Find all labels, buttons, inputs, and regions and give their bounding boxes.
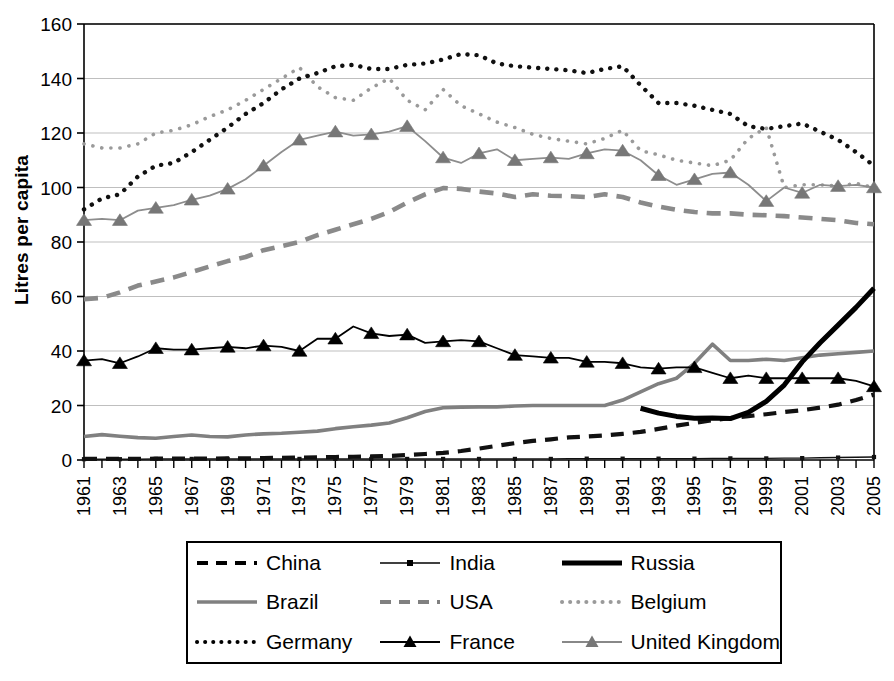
series-line bbox=[84, 126, 874, 220]
legend-label: Russia bbox=[631, 551, 695, 575]
data-point-marker bbox=[513, 457, 517, 461]
series-line bbox=[84, 395, 874, 459]
legend-item-india[interactable]: India bbox=[371, 543, 552, 583]
legend-swatch bbox=[371, 591, 449, 613]
x-axis-tick-labels: 1961196319651967196919711973197519771979… bbox=[74, 476, 884, 516]
legend-swatch bbox=[553, 552, 631, 574]
x-tick-label: 1961 bbox=[74, 476, 94, 516]
legend-swatch bbox=[553, 591, 631, 613]
legend-row: ChinaIndiaRussia bbox=[188, 543, 780, 583]
line-chart-svg: 020406080100120140160 196119631965196719… bbox=[0, 0, 894, 540]
legend-item-france[interactable]: France bbox=[371, 622, 552, 662]
data-point-marker bbox=[364, 327, 379, 339]
legend-item-germany[interactable]: Germany bbox=[188, 622, 371, 662]
legend-label: Brazil bbox=[266, 590, 319, 614]
data-point-marker bbox=[148, 342, 163, 354]
x-tick-label: 1973 bbox=[289, 476, 309, 516]
y-tick-label: 80 bbox=[51, 232, 72, 253]
x-tick-label: 1963 bbox=[110, 476, 130, 516]
y-tick-label: 120 bbox=[40, 123, 72, 144]
legend-swatch bbox=[188, 591, 266, 613]
legend-item-united-kingdom[interactable]: United Kingdom bbox=[553, 622, 780, 662]
x-tick-label: 1993 bbox=[649, 476, 669, 516]
y-tick-label: 40 bbox=[51, 341, 72, 362]
y-axis-ticks: 020406080100120140160 bbox=[40, 14, 84, 471]
data-point-marker bbox=[226, 457, 230, 461]
data-point-marker bbox=[549, 457, 553, 461]
y-tick-label: 20 bbox=[51, 396, 72, 417]
data-point-marker bbox=[333, 457, 337, 461]
legend-swatch bbox=[188, 631, 266, 653]
x-tick-label: 1969 bbox=[218, 476, 238, 516]
legend-key bbox=[378, 631, 442, 653]
legend-item-usa[interactable]: USA bbox=[371, 583, 552, 623]
legend-key bbox=[195, 591, 259, 613]
data-point-marker bbox=[872, 455, 876, 459]
x-tick-label: 1997 bbox=[720, 476, 740, 516]
legend-label: USA bbox=[449, 590, 492, 614]
y-tick-label: 0 bbox=[61, 450, 72, 471]
data-point-marker bbox=[190, 457, 194, 461]
x-tick-label: 1983 bbox=[469, 476, 489, 516]
x-tick-label: 1987 bbox=[541, 476, 561, 516]
x-tick-label: 1975 bbox=[325, 476, 345, 516]
legend-key bbox=[195, 552, 259, 574]
data-point-marker bbox=[441, 457, 445, 461]
x-axis-ticks bbox=[84, 460, 874, 468]
x-tick-label: 1977 bbox=[361, 476, 381, 516]
legend-key bbox=[378, 552, 442, 574]
data-point-marker bbox=[800, 456, 804, 460]
legend-label: France bbox=[449, 630, 514, 654]
legend-label: Germany bbox=[266, 630, 352, 654]
x-tick-label: 1981 bbox=[433, 476, 453, 516]
series-usa bbox=[84, 188, 874, 299]
legend-item-russia[interactable]: Russia bbox=[553, 543, 780, 583]
data-point-marker bbox=[256, 339, 271, 351]
legend-item-china[interactable]: China bbox=[188, 543, 371, 583]
y-tick-label: 60 bbox=[51, 287, 72, 308]
y-tick-label: 140 bbox=[40, 69, 72, 90]
y-tick-label: 160 bbox=[40, 14, 72, 35]
data-point-marker bbox=[543, 151, 558, 163]
data-point-marker bbox=[400, 120, 415, 132]
data-point-marker bbox=[220, 182, 235, 194]
legend-label: Belgium bbox=[631, 590, 707, 614]
data-point-marker bbox=[405, 457, 409, 461]
x-tick-label: 1991 bbox=[613, 476, 633, 516]
x-tick-label: 1967 bbox=[182, 476, 202, 516]
y-tick-label: 100 bbox=[40, 178, 72, 199]
series-united-kingdom bbox=[77, 120, 882, 226]
legend-key bbox=[560, 631, 624, 653]
legend-label: India bbox=[449, 551, 495, 575]
x-tick-label: 1999 bbox=[756, 476, 776, 516]
legend-row: BrazilUSABelgium bbox=[188, 583, 780, 623]
data-point-marker bbox=[82, 457, 86, 461]
series-brazil bbox=[84, 344, 874, 438]
x-tick-label: 1989 bbox=[577, 476, 597, 516]
data-point-marker bbox=[118, 457, 122, 461]
legend-key-marker bbox=[407, 560, 413, 566]
data-point-marker bbox=[723, 166, 738, 178]
data-point-marker bbox=[261, 457, 265, 461]
series-germany bbox=[84, 54, 874, 209]
data-point-marker bbox=[585, 457, 589, 461]
data-point-marker bbox=[477, 457, 481, 461]
data-point-marker bbox=[692, 457, 696, 461]
data-point-marker bbox=[728, 456, 732, 460]
series-line bbox=[84, 54, 874, 209]
data-point-marker bbox=[867, 380, 882, 392]
legend-label: United Kingdom bbox=[631, 630, 780, 654]
legend-swatch bbox=[553, 631, 631, 653]
x-tick-label: 1965 bbox=[146, 476, 166, 516]
legend-key bbox=[378, 591, 442, 613]
legend-item-belgium[interactable]: Belgium bbox=[553, 583, 780, 623]
legend-item-brazil[interactable]: Brazil bbox=[188, 583, 371, 623]
legend-key bbox=[560, 591, 624, 613]
legend-key bbox=[195, 631, 259, 653]
series-line bbox=[84, 344, 874, 438]
data-point-marker bbox=[400, 328, 415, 340]
data-point-marker bbox=[220, 341, 235, 353]
series-china bbox=[84, 395, 874, 459]
x-tick-label: 2005 bbox=[864, 476, 884, 516]
x-tick-label: 1979 bbox=[397, 476, 417, 516]
